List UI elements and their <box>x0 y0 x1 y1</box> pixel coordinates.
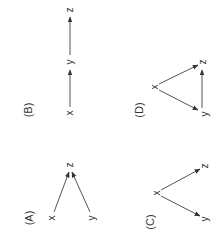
panel-a: (A) x y z <box>23 163 97 226</box>
edge-a-x-to-z <box>54 172 69 212</box>
edge-d-x-to-y <box>159 90 198 110</box>
node-a-z: z <box>64 163 75 168</box>
panel-d: (D) x y z <box>133 60 210 118</box>
node-a-y: y <box>86 216 97 221</box>
node-c-y: y <box>199 217 210 222</box>
edge-a-y-to-z <box>72 172 90 212</box>
node-b-x: x <box>64 111 75 116</box>
edge-c-x-to-y <box>161 196 200 216</box>
panel-a-label: (A) <box>23 211 35 226</box>
edge-d-x-to-z <box>159 65 198 84</box>
node-a-x: x <box>46 216 57 221</box>
node-c-x: x <box>151 191 162 196</box>
node-d-y: y <box>199 112 210 117</box>
edge-c-x-to-z <box>161 169 200 190</box>
panel-c: (C) x y z <box>144 164 210 230</box>
panel-b: (B) x y z <box>22 8 75 118</box>
node-d-z: z <box>197 60 208 65</box>
node-c-z: z <box>199 164 210 169</box>
node-d-x: x <box>149 85 160 90</box>
panel-c-label: (C) <box>144 214 156 229</box>
node-b-z: z <box>64 8 75 13</box>
node-b-y: y <box>64 60 75 65</box>
causal-diagram-figure: (B) x y z (A) x y z (D) x y z (C) x y z <box>0 0 224 248</box>
panel-b-label: (B) <box>22 103 34 118</box>
panel-d-label: (D) <box>133 102 145 117</box>
